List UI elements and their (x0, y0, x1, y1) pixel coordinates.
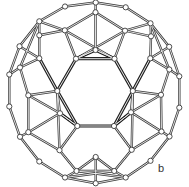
atom-node (159, 129, 164, 134)
atom-node (7, 72, 12, 77)
atom-node (130, 88, 135, 93)
edge-highlight (9, 107, 20, 137)
edge-highlight (96, 12, 126, 30)
atom-node (148, 21, 153, 26)
edge-highlight (39, 7, 65, 22)
atom-node (148, 158, 153, 163)
atom-node (167, 44, 172, 49)
edge-highlight (65, 30, 115, 58)
fullerene-diagram (0, 0, 189, 187)
edge-highlight (39, 21, 65, 30)
edge-highlight (76, 31, 125, 59)
atom-node (26, 93, 31, 98)
edge-highlight (151, 137, 170, 161)
atom-node (148, 56, 153, 61)
edge-highlight (60, 126, 78, 150)
figure-panel-label: b (158, 162, 164, 174)
atom-node (93, 47, 98, 52)
edge-highlight (39, 162, 65, 178)
edge-highlight (133, 91, 161, 95)
atom-node (74, 168, 79, 173)
atom-node (55, 88, 60, 93)
edge-highlight (96, 3, 126, 8)
atom-node (112, 56, 117, 61)
atom-node (158, 92, 163, 97)
bold-edge-highlight (39, 58, 57, 91)
atom-node (17, 134, 22, 139)
bold-edge-highlight (133, 58, 151, 91)
atom-node (37, 159, 42, 164)
edge-highlight (28, 95, 60, 113)
edge-highlight (77, 157, 96, 171)
edge-highlight (131, 112, 162, 131)
edge-highlight (131, 95, 161, 113)
atom-node (62, 175, 67, 180)
atom-node (57, 148, 62, 153)
edge-highlight (65, 12, 96, 30)
edge-highlight (20, 137, 39, 162)
bold-edge-highlight (114, 91, 133, 126)
edge-highlight (28, 132, 59, 150)
atom-node (123, 175, 128, 180)
edge-highlight (114, 150, 132, 171)
atom-node (93, 0, 98, 5)
edge-highlight (28, 113, 60, 132)
edge-highlight (126, 161, 151, 178)
atom-node (62, 4, 67, 9)
atom-node (129, 147, 134, 152)
atom-node (177, 74, 182, 79)
atom-node (123, 5, 128, 10)
atom-node (7, 104, 12, 109)
atom-node (93, 154, 98, 159)
atom-node (37, 56, 42, 61)
atom-node (57, 111, 62, 116)
edge-highlight (96, 157, 115, 171)
edge-highlight (20, 68, 28, 96)
atom-node (112, 168, 117, 173)
bold-edge-highlight (115, 59, 133, 91)
atom-node (93, 181, 98, 186)
atom-node (111, 123, 116, 128)
atom-node (148, 34, 153, 39)
edge-highlight (132, 132, 162, 150)
edge-highlight (60, 150, 77, 171)
edge-highlight (28, 91, 57, 95)
atom-node (177, 105, 182, 110)
atom-node (167, 134, 172, 139)
edge-highlight (125, 23, 151, 30)
atom-node (75, 123, 80, 128)
atom-node (73, 56, 78, 61)
edge-highlight (65, 3, 96, 7)
edge-highlight (65, 178, 96, 184)
atom-node (17, 44, 22, 49)
atom-node (26, 130, 31, 135)
edge-highlight (114, 126, 132, 150)
edge-highlight (39, 30, 65, 35)
atom-node (167, 67, 172, 72)
edge-highlight (126, 7, 151, 23)
atom-node (128, 110, 133, 115)
atom-node (17, 65, 22, 70)
atom-node (37, 19, 42, 24)
atom-node (93, 10, 98, 15)
edge-highlight (125, 31, 151, 37)
edge-highlight (170, 108, 180, 137)
edge-highlight (161, 70, 169, 95)
atom-node (122, 28, 127, 33)
atom-node (62, 28, 67, 33)
edge-highlight (96, 178, 126, 184)
edge-highlight (161, 95, 162, 132)
atom-node (37, 33, 42, 38)
bold-edge-highlight (57, 59, 76, 91)
